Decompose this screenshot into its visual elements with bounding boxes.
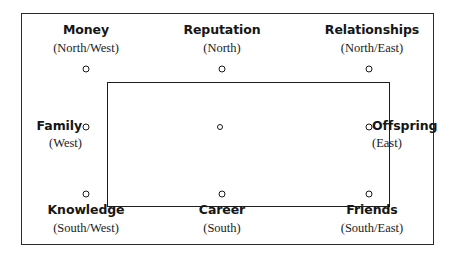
label-friends-name: Friends bbox=[341, 204, 404, 217]
label-offspring-name: Offspring bbox=[372, 120, 437, 133]
label-family: Family (West) bbox=[37, 120, 82, 149]
label-relationships-name: Relationships bbox=[325, 24, 419, 37]
label-friends-direction: (South/East) bbox=[341, 222, 404, 235]
diagram-inner-square bbox=[107, 82, 390, 207]
label-offspring: Offspring (East) bbox=[372, 120, 437, 149]
diagram-outer-frame: Money (North/West) Reputation (North) Re… bbox=[21, 13, 434, 245]
node-marker-relationships bbox=[366, 66, 373, 73]
label-reputation: Reputation (North) bbox=[183, 24, 260, 54]
node-marker-knowledge bbox=[83, 191, 90, 198]
label-relationships-direction: (North/East) bbox=[325, 42, 419, 55]
node-marker-family bbox=[83, 124, 90, 131]
label-money-name: Money bbox=[53, 24, 119, 37]
node-marker-career bbox=[219, 191, 226, 198]
label-knowledge-direction: (South/West) bbox=[48, 222, 125, 235]
label-reputation-direction: (North) bbox=[183, 42, 260, 55]
label-relationships: Relationships (North/East) bbox=[325, 24, 419, 54]
label-family-direction: (West) bbox=[37, 137, 82, 150]
label-career: Career (South) bbox=[199, 204, 245, 234]
label-friends: Friends (South/East) bbox=[341, 204, 404, 234]
label-family-name: Family bbox=[37, 120, 82, 133]
diagram-page: Money (North/West) Reputation (North) Re… bbox=[0, 0, 458, 262]
label-career-direction: (South) bbox=[199, 222, 245, 235]
label-knowledge-name: Knowledge bbox=[48, 204, 125, 217]
label-money: Money (North/West) bbox=[53, 24, 119, 54]
label-reputation-name: Reputation bbox=[183, 24, 260, 37]
node-marker-money bbox=[83, 66, 90, 73]
label-money-direction: (North/West) bbox=[53, 42, 119, 55]
label-offspring-direction: (East) bbox=[372, 137, 437, 150]
node-marker-friends bbox=[366, 191, 373, 198]
label-knowledge: Knowledge (South/West) bbox=[48, 204, 125, 234]
node-marker-center bbox=[217, 124, 223, 130]
node-marker-reputation bbox=[219, 66, 226, 73]
label-career-name: Career bbox=[199, 204, 245, 217]
